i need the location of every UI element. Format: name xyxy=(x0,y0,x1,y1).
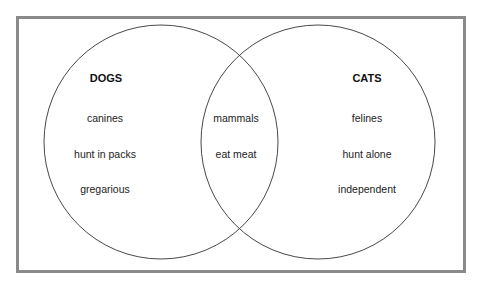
dogs-circle xyxy=(44,25,278,259)
cats-item-independent: independent xyxy=(338,183,396,195)
dogs-item-gregarious: gregarious xyxy=(80,183,130,195)
intersection-item-eat-meat: eat meat xyxy=(216,148,257,160)
dogs-title: DOGS xyxy=(90,72,122,84)
venn-diagram xyxy=(0,0,481,284)
cats-item-hunt-alone: hunt alone xyxy=(342,148,391,160)
cats-item-felines: felines xyxy=(352,112,382,124)
cats-circle xyxy=(201,25,435,259)
dogs-item-hunt-in-packs: hunt in packs xyxy=(74,148,136,160)
cats-title: CATS xyxy=(352,72,381,84)
intersection-item-mammals: mammals xyxy=(213,112,259,124)
dogs-item-canines: canines xyxy=(87,112,123,124)
